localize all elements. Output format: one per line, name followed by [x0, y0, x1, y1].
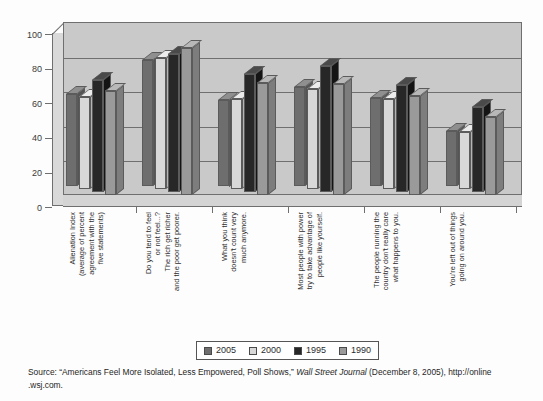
bar-face — [168, 54, 179, 192]
source-prefix: Source: “Americans Feel More Isolated, L… — [28, 367, 296, 377]
bar-face — [66, 94, 77, 186]
bar-face — [294, 87, 305, 186]
y-axis-tick: 80 — [32, 63, 52, 75]
x-axis-category-label: What you thinkdoesn't count verymuch any… — [220, 212, 248, 332]
category-label-line: or not feel...? — [153, 212, 162, 332]
chart-figure: 020406080100 Alienation Index(average of… — [0, 0, 543, 401]
source-note: Source: “Americans Feel More Isolated, L… — [28, 366, 518, 391]
category-label-line: Most people with power — [296, 212, 305, 332]
bar-face — [472, 107, 483, 192]
bar-face — [155, 58, 166, 189]
y-axis-tick: 0 — [37, 201, 52, 213]
bar-face — [231, 99, 242, 189]
legend-item[interactable]: 1995 — [294, 346, 326, 355]
legend-item[interactable]: 2000 — [249, 346, 281, 355]
category-label-line: what happens to you. — [391, 212, 400, 332]
y-axis-tick: 60 — [32, 97, 52, 109]
category-label-line: people like yourself. — [315, 212, 324, 332]
bar-face — [79, 97, 90, 189]
bar-series-container — [52, 22, 522, 207]
chart-legend: 2005200019951990 — [196, 341, 379, 360]
legend-label: 1995 — [306, 346, 326, 355]
x-axis-categories: Alienation Index(average of percentagree… — [52, 212, 522, 332]
x-axis-tick — [364, 207, 365, 213]
category-label-line: (average of percent — [77, 212, 86, 332]
category-label-line: What you think — [220, 212, 229, 332]
x-axis-category-label: Do you tend to feelor not feel...?The ri… — [144, 212, 182, 332]
bar-face — [446, 131, 457, 186]
legend-label: 1990 — [351, 346, 371, 355]
category-label-line: Do you tend to feel — [144, 212, 153, 332]
bar-face — [257, 83, 268, 195]
bar-side — [116, 85, 124, 195]
category-label-line: and the poor get poorer. — [172, 212, 181, 332]
category-label-line: much anymore. — [239, 212, 248, 332]
bar-group — [142, 22, 210, 207]
bar-group — [294, 22, 362, 207]
bar-face — [244, 74, 255, 192]
bar-face — [383, 99, 394, 189]
x-axis-category-label: You're left out of thingsgoing on around… — [448, 212, 467, 332]
bar-face — [307, 89, 318, 189]
bar-face — [181, 48, 192, 195]
bar-face — [396, 85, 407, 192]
bar-face — [485, 117, 496, 195]
x-axis-category-label: Most people with powertry to take advant… — [296, 212, 324, 332]
bar-face — [333, 84, 344, 195]
y-axis-tick: 40 — [32, 132, 52, 144]
bar-face — [320, 66, 331, 192]
legend-label: 2000 — [261, 346, 281, 355]
bar-face — [92, 80, 103, 192]
bar-side — [344, 78, 352, 195]
legend-swatch — [294, 347, 302, 355]
bar-group — [446, 22, 514, 207]
bar-face — [105, 91, 116, 195]
bar-side — [420, 90, 428, 195]
bar-side — [192, 42, 200, 195]
bar-face — [409, 96, 420, 195]
bar-face — [459, 132, 470, 189]
legend-swatch — [204, 347, 212, 355]
category-label-line: try to take advantage of — [305, 212, 314, 332]
category-label-line: Alienation Index — [68, 212, 77, 332]
x-axis-tick — [516, 207, 517, 213]
y-axis-tick: 100 — [27, 28, 52, 40]
legend-item[interactable]: 2005 — [204, 346, 236, 355]
legend-label: 2005 — [216, 346, 236, 355]
source-publication: Wall Street Journal — [296, 367, 367, 377]
x-axis-category-label: Alienation Index(average of percentagree… — [68, 212, 106, 332]
bar-side — [268, 76, 276, 195]
category-label-line: The rich get richer — [163, 212, 172, 332]
bar-face — [370, 98, 381, 186]
bar-face — [218, 100, 229, 187]
category-label-line: country don't really care — [381, 212, 390, 332]
legend-item[interactable]: 1990 — [339, 346, 371, 355]
x-axis-tick — [440, 207, 441, 213]
x-axis-tick — [136, 207, 137, 213]
y-axis-tick: 20 — [32, 166, 52, 178]
category-label-line: agreement with the — [87, 212, 96, 332]
bar-group — [218, 22, 286, 207]
bar-group — [66, 22, 134, 207]
x-axis-tick — [212, 207, 213, 213]
x-axis-tick — [288, 207, 289, 213]
y-axis: 020406080100 — [0, 22, 52, 218]
legend-swatch — [249, 347, 257, 355]
category-label-line: going on around you. — [457, 212, 466, 332]
category-label-line: You're left out of things — [448, 212, 457, 332]
bar-group — [370, 22, 438, 207]
bar-side — [496, 111, 504, 195]
category-label-line: doesn't count very — [229, 212, 238, 332]
bar-face — [142, 60, 153, 186]
x-axis-category-label: The people running thecountry don't real… — [372, 212, 400, 332]
category-label-line: The people running the — [372, 212, 381, 332]
legend-swatch — [339, 347, 347, 355]
category-label-line: five statements) — [96, 212, 105, 332]
